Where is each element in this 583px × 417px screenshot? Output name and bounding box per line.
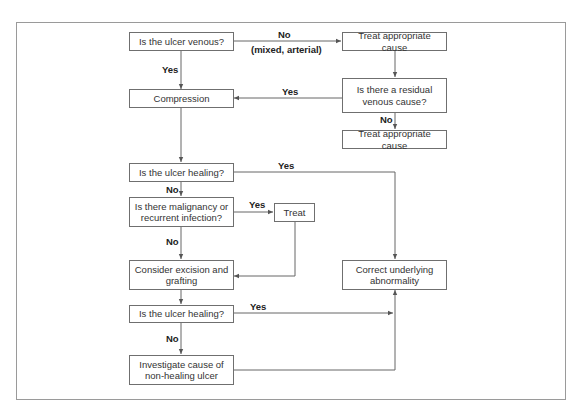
edge-label-venous-no: No xyxy=(278,29,291,40)
edge-label-malignancy-yes: Yes xyxy=(249,199,265,210)
edge-label-healing2-yes: Yes xyxy=(250,301,266,312)
node-residual-venous-cause: Is there a residual venous cause? xyxy=(342,78,447,113)
edge-label-residual-no: No xyxy=(380,114,393,125)
node-treat: Treat xyxy=(274,203,315,222)
node-malignancy-or-infection: Is there malignancy or recurrent infecti… xyxy=(129,197,234,227)
node-is-ulcer-healing-1: Is the ulcer healing? xyxy=(129,163,234,182)
edge-label-venous-no-detail: (mixed, arterial) xyxy=(251,44,322,55)
node-investigate-non-healing: Investigate cause of non-healing ulcer xyxy=(129,355,234,385)
node-is-ulcer-venous: Is the ulcer venous? xyxy=(129,32,234,51)
node-correct-underlying-abnormality: Correct underlying abnormality xyxy=(342,260,447,290)
edge-label-healing2-no: No xyxy=(166,333,179,344)
node-compression: Compression xyxy=(129,89,234,108)
node-is-ulcer-healing-2: Is the ulcer healing? xyxy=(129,305,234,323)
edge-label-healing1-yes: Yes xyxy=(278,160,294,171)
node-consider-excision-grafting: Consider excision and grafting xyxy=(129,260,234,290)
edge-label-malignancy-no: No xyxy=(166,236,179,247)
node-treat-appropriate-cause-2: Treat appropriate cause xyxy=(342,130,447,149)
edge-label-healing1-no: No xyxy=(166,184,179,195)
edge-label-residual-yes: Yes xyxy=(282,86,298,97)
node-treat-appropriate-cause-1: Treat appropriate cause xyxy=(342,32,447,51)
edge-label-venous-yes: Yes xyxy=(162,64,178,75)
